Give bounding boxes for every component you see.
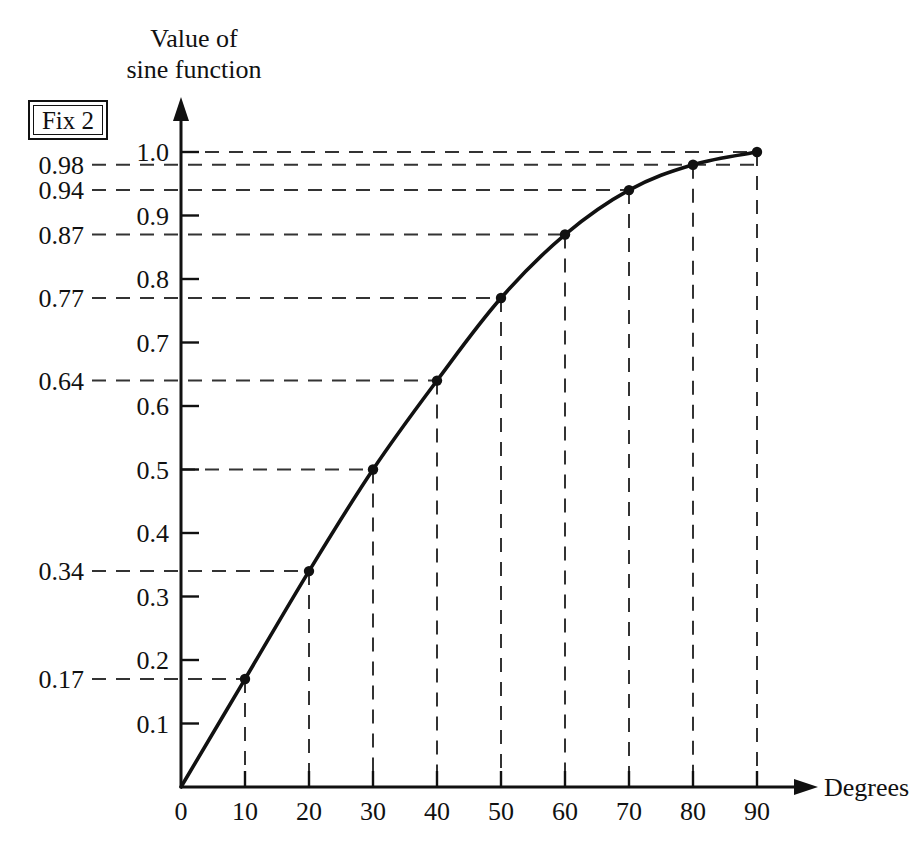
y-value-label-0.98: 0.98: [39, 151, 85, 180]
y-axis-value-annotations: 0.170.340.640.770.870.940.98: [39, 151, 85, 694]
x-axis: [181, 779, 818, 795]
x-tick-label-0: 0: [175, 797, 188, 826]
x-axis-tick-labels: 0102030405060708090: [175, 797, 771, 826]
x-tick-label-70: 70: [616, 797, 642, 826]
data-point-40: [432, 375, 442, 385]
data-point-70: [624, 185, 634, 195]
data-point-90: [752, 147, 762, 157]
y-axis: [173, 97, 189, 787]
horizontal-leader-lines: [92, 152, 757, 679]
x-tick-label-10: 10: [232, 797, 258, 826]
y-tick-label-1.0: 1.0: [137, 138, 170, 167]
x-tick-label-40: 40: [424, 797, 450, 826]
data-point-30: [368, 464, 378, 474]
data-point-markers: [240, 147, 762, 684]
x-tick-label-20: 20: [296, 797, 322, 826]
x-tick-label-50: 50: [488, 797, 514, 826]
data-point-10: [240, 674, 250, 684]
data-point-20: [304, 566, 314, 576]
figure-canvas: Value of sine function Fix 2 0.10.20.30.…: [0, 0, 915, 842]
x-axis-title: Degrees: [824, 773, 909, 802]
y-tick-label-0.5: 0.5: [137, 456, 170, 485]
y-value-label-0.77: 0.77: [39, 284, 85, 313]
y-tick-label-0.7: 0.7: [137, 329, 170, 358]
data-point-50: [496, 293, 506, 303]
vertical-drop-lines: [245, 152, 757, 787]
x-axis-tick-marks: [245, 771, 757, 787]
data-point-80: [688, 160, 698, 170]
x-tick-label-30: 30: [360, 797, 386, 826]
y-value-label-0.64: 0.64: [39, 367, 85, 396]
y-value-label-0.17: 0.17: [39, 665, 85, 694]
sine-curve-plot: 0.10.20.30.40.50.60.70.80.91.0 0.170.340…: [0, 0, 915, 842]
y-axis-tick-marks: [181, 152, 199, 724]
y-value-label-0.87: 0.87: [39, 221, 85, 250]
sine-curve: [181, 152, 757, 787]
y-tick-label-0.3: 0.3: [137, 583, 170, 612]
data-point-60: [560, 229, 570, 239]
y-tick-label-0.9: 0.9: [137, 202, 170, 231]
y-tick-label-0.6: 0.6: [137, 392, 170, 421]
y-tick-label-0.2: 0.2: [137, 646, 170, 675]
x-tick-label-90: 90: [744, 797, 770, 826]
x-tick-label-80: 80: [680, 797, 706, 826]
y-value-label-0.34: 0.34: [39, 557, 85, 586]
x-tick-label-60: 60: [552, 797, 578, 826]
y-tick-label-0.1: 0.1: [137, 710, 170, 739]
y-value-label-0.94: 0.94: [39, 176, 85, 205]
y-axis-tick-labels: 0.10.20.30.40.50.60.70.80.91.0: [137, 138, 170, 739]
y-tick-label-0.4: 0.4: [137, 519, 170, 548]
y-tick-label-0.8: 0.8: [137, 265, 170, 294]
